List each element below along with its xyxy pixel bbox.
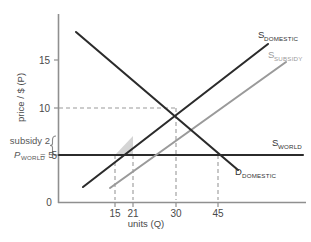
p-world-value: = 5 [40, 149, 53, 160]
p-world-main: P [14, 149, 21, 160]
curve-s-subsidy [110, 62, 286, 188]
p-world-annotation: P WORLD = 5 [14, 149, 53, 161]
x-tick-label-21: 21 [127, 208, 139, 219]
x-tick-label-30: 30 [170, 208, 182, 219]
x-axis-label: units (Q) [128, 218, 164, 229]
label-s-domestic-sub: DOMESTIC [264, 35, 299, 42]
subsidy-welfare-loss-triangle [115, 136, 133, 155]
x-tick-label-15: 15 [109, 208, 121, 219]
curve-d-domestic [76, 32, 238, 170]
label-s-domestic: S DOMESTIC [258, 29, 299, 42]
label-d-domestic-sub: DOMESTIC [242, 172, 277, 179]
y-axis-label: price / $ (P) [15, 73, 26, 122]
subsidy-annotation-label: subsidy 2 [10, 135, 50, 146]
label-s-world-sub: WORLD [278, 143, 302, 150]
x-tick-label-45: 45 [212, 208, 224, 219]
label-d-domestic: D DOMESTIC [235, 166, 277, 179]
y-tick-label-10: 10 [39, 103, 51, 114]
label-s-subsidy: S SUBSIDY [268, 49, 303, 62]
y-tick-label-15: 15 [39, 55, 51, 66]
chart-plot-area: price / $ (P) units (Q) 0 15 10 5 15 21 … [0, 0, 311, 242]
label-d-domestic-main: D [235, 166, 242, 177]
economics-subsidy-diagram: price / $ (P) units (Q) 0 15 10 5 15 21 … [0, 0, 311, 242]
origin-label: 0 [46, 197, 52, 208]
label-s-subsidy-sub: SUBSIDY [274, 55, 303, 62]
label-s-world: S WORLD [272, 137, 302, 150]
